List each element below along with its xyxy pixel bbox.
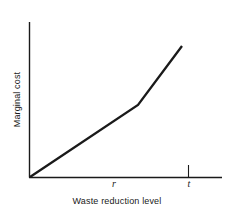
x-tick-label-r: r: [104, 178, 124, 189]
marginal-cost-curve: [30, 46, 182, 177]
x-tick-label-t: t: [179, 178, 199, 189]
y-axis-title: Marginal cost: [12, 22, 22, 177]
x-axis-title: Waste reduction level: [0, 196, 234, 206]
marginal-cost-chart-figure: r t Waste reduction level Marginal cost: [0, 0, 234, 214]
